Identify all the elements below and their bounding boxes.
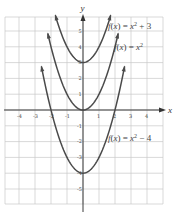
x-axis-arrow-icon: [159, 108, 166, 113]
label-x2-minus-4: f(x) = x2 − 4: [108, 133, 152, 144]
y-axis-arrow-icon: [81, 14, 86, 21]
y-tick-label: 2: [79, 75, 82, 81]
curve-arrow-icon: [55, 14, 59, 20]
curve-arrow-icon: [115, 33, 119, 39]
curve-arrow-icon: [47, 33, 51, 39]
function-graph: xy -4-3-2-1123454321-1-2-3-4-5 f(x) = x2…: [0, 0, 174, 212]
function-labels: f(x) = x2 + 3f(x) = x2f(x) = x2 − 4: [108, 21, 152, 144]
x-tick-label: -4: [17, 113, 22, 119]
y-tick-label: 4: [79, 44, 82, 50]
y-tick-label: -3: [77, 154, 82, 160]
x-tick-label: -3: [33, 113, 38, 119]
curve-arrow-icon: [40, 65, 44, 71]
label-x2-plus-3: f(x) = x2 + 3: [108, 21, 152, 32]
label-x2: f(x) = x2: [114, 42, 143, 53]
x-tick-label: 3: [129, 113, 132, 119]
x-axis-label: x: [167, 105, 172, 115]
curve-arrow-icon: [107, 14, 111, 20]
x-tick-label: 1: [97, 113, 100, 119]
y-tick-label: 5: [79, 28, 82, 34]
y-tick-label: -1: [77, 123, 82, 129]
y-axis-label: y: [80, 3, 85, 13]
y-tick-label: 1: [79, 91, 82, 97]
y-tick-label: -2: [77, 138, 82, 144]
x-tick-label: 4: [145, 113, 148, 119]
x-tick-label: -1: [65, 113, 70, 119]
curve-arrow-icon: [122, 65, 126, 71]
y-tick-label: -5: [77, 186, 82, 192]
